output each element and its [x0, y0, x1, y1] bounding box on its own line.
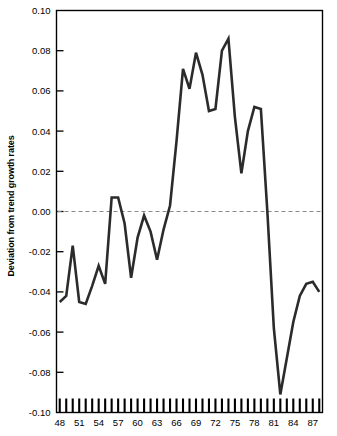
y-axis-label-text: Deviation from trend growth rates — [6, 135, 16, 276]
y-tick-label: 0.08 — [32, 45, 51, 56]
x-tick-label: 48 — [54, 417, 65, 428]
y-tick-label: 0.04 — [32, 126, 51, 137]
y-tick-label: -0.04 — [29, 286, 51, 297]
x-tick-label: 63 — [152, 417, 163, 428]
x-tick-label: 57 — [113, 417, 124, 428]
y-tick-label: -0.06 — [29, 327, 51, 338]
y-tick-label: -0.02 — [29, 246, 51, 257]
x-tick-label: 75 — [230, 417, 241, 428]
y-tick-label: 0.06 — [32, 85, 51, 96]
x-tick-label: 54 — [93, 417, 104, 428]
y-tick-label: 0.00 — [32, 206, 51, 217]
y-tick-label: -0.10 — [29, 407, 51, 418]
x-tick-label: 84 — [288, 417, 299, 428]
y-axis-label: Deviation from trend growth rates — [0, 0, 22, 412]
y-tick-label: 0.10 — [32, 5, 51, 16]
y-tick-label: -0.08 — [29, 367, 51, 378]
chart-figure: Deviation from trend growth rates 0.100.… — [0, 0, 337, 436]
x-tick-label: 66 — [171, 417, 182, 428]
x-tick-label: 87 — [307, 417, 318, 428]
line-chart-plot: 0.100.080.060.040.020.00-0.02-0.04-0.06-… — [0, 0, 337, 436]
x-tick-label: 60 — [132, 417, 143, 428]
x-tick-label: 72 — [210, 417, 221, 428]
data-series-line — [60, 39, 320, 395]
x-tick-label: 69 — [191, 417, 202, 428]
x-tick-label: 51 — [74, 417, 85, 428]
x-tick-label: 78 — [249, 417, 260, 428]
y-tick-label: 0.02 — [32, 166, 51, 177]
x-tick-label: 81 — [269, 417, 280, 428]
